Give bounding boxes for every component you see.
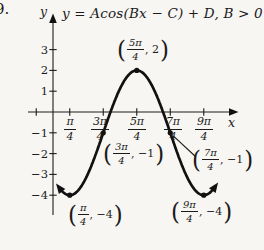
x-tick-label: 9π4	[190, 116, 218, 143]
key-point-dot	[134, 68, 139, 73]
key-point-dot	[201, 193, 206, 198]
close-paren	[244, 147, 253, 172]
x-tick-label: 5π4	[123, 116, 151, 143]
equation-title: y = Acos(Bx − C) + D, B > 0	[62, 5, 263, 21]
y-tick-label: 3	[28, 43, 48, 57]
key-point-dot	[67, 193, 72, 198]
point-label-midline-right: 7π4 −1	[192, 147, 253, 172]
close-paren	[155, 141, 164, 166]
point-label-maximum: 5π4 2	[117, 37, 169, 62]
y-tick-label: 1	[28, 84, 48, 98]
y-tick-label: −2	[28, 147, 48, 161]
open-paren	[103, 141, 112, 166]
close-paren	[160, 37, 169, 62]
trig-graph-figure: 9. y = Acos(Bx − C) + D, B > 0 y x 3 2 1…	[0, 0, 264, 250]
point-label-minimum-right: 9π4 −4	[171, 199, 232, 224]
open-paren	[192, 147, 201, 172]
close-paren	[223, 199, 232, 224]
open-paren	[171, 199, 180, 224]
point-label-midline-left: 3π4 −1	[103, 141, 164, 166]
close-paren	[114, 202, 123, 227]
y-tick-label: −3	[28, 167, 48, 181]
y-tick-label: −1	[28, 126, 48, 140]
x-axis-label: x	[228, 115, 235, 130]
problem-number: 9.	[0, 0, 9, 18]
y-axis-arrow-icon	[49, 14, 57, 24]
y-tick-label: −4	[28, 188, 48, 202]
y-tick-label: 2	[28, 63, 48, 77]
open-paren	[117, 37, 126, 62]
x-tick-label: π4	[56, 116, 84, 143]
point-label-minimum-left: π4 −4	[68, 202, 123, 227]
y-axis-label: y	[40, 4, 47, 19]
open-paren	[68, 202, 77, 227]
